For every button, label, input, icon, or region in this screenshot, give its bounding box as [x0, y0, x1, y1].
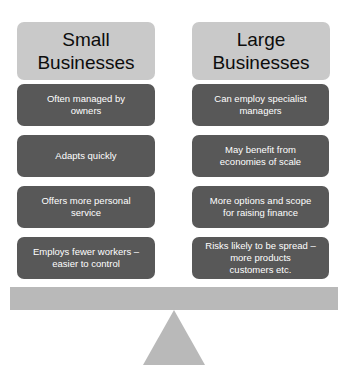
point-box: Risks likely to be spread – more product…: [192, 237, 329, 279]
point-box: More options and scope for raising finan…: [192, 186, 329, 228]
point-box: Employs fewer workers – easier to contro…: [17, 237, 155, 279]
point-box-label: Adapts quickly: [55, 150, 116, 162]
column-header-label: Large Businesses: [212, 28, 309, 74]
balance-scale-diagram: Small Businesses Large Businesses Often …: [0, 0, 348, 375]
point-box-label: Risks likely to be spread – more product…: [205, 240, 315, 276]
point-box: Adapts quickly: [17, 135, 155, 177]
point-box-label: More options and scope for raising finan…: [210, 195, 311, 219]
point-box-label: May benefit from economies of scale: [220, 144, 301, 168]
column-header-large-businesses: Large Businesses: [192, 22, 330, 80]
point-box-label: Employs fewer workers – easier to contro…: [33, 246, 139, 270]
balance-fulcrum-icon: [143, 310, 205, 365]
column-header-small-businesses: Small Businesses: [17, 22, 155, 80]
point-box: Can employ specialist managers: [192, 84, 329, 126]
balance-beam-icon: [10, 287, 338, 310]
point-box: Offers more personal service: [17, 186, 155, 228]
point-box-label: Can employ specialist managers: [214, 93, 306, 117]
point-box: Often managed by owners: [17, 84, 155, 126]
point-box: May benefit from economies of scale: [192, 135, 329, 177]
point-box-label: Often managed by owners: [47, 93, 125, 117]
column-header-label: Small Businesses: [37, 28, 134, 74]
point-box-label: Offers more personal service: [41, 195, 130, 219]
